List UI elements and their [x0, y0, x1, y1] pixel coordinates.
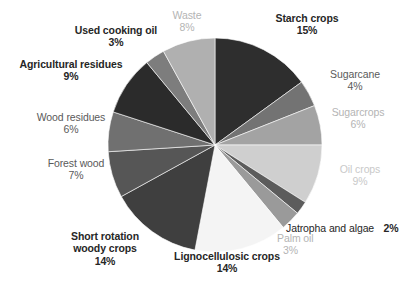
label-short-rotation-woody-crops-name-line1: Short rotation	[45, 230, 165, 242]
label-lignocellulosic-crops: Lignocellulosic crops 14%	[152, 250, 302, 275]
label-wood-residues: Wood residues 6%	[14, 111, 128, 136]
label-waste: Waste 8%	[154, 9, 220, 34]
label-sugarcane-name: Sugarcane	[310, 68, 400, 80]
label-starch-crops-name: Starch crops	[247, 12, 367, 24]
label-sugarcrops-value: 6%	[312, 118, 404, 130]
label-agricultural-residues: Agricultural residues 9%	[4, 58, 138, 83]
label-starch-crops: Starch crops 15%	[247, 12, 367, 37]
label-agricultural-residues-value: 9%	[4, 70, 138, 82]
label-short-rotation-woody-crops-name-line2: woody crops	[45, 242, 165, 254]
label-oil-crops-value: 9%	[320, 175, 400, 187]
label-forest-wood-value: 7%	[22, 169, 130, 181]
label-palm-oil-name: Palm oil	[277, 232, 337, 244]
label-wood-residues-value: 6%	[14, 123, 128, 135]
label-short-rotation-woody-crops-value: 14%	[45, 255, 165, 267]
pie-chart: Starch crops 15% Sugarcane 4% Sugarcrops…	[0, 0, 406, 289]
label-starch-crops-value: 15%	[247, 24, 367, 36]
label-waste-name: Waste	[154, 9, 220, 21]
label-sugarcrops-name: Sugarcrops	[312, 106, 404, 118]
label-lignocellulosic-crops-name: Lignocellulosic crops	[152, 250, 302, 262]
label-forest-wood-name: Forest wood	[22, 157, 130, 169]
label-agricultural-residues-name: Agricultural residues	[4, 58, 138, 70]
label-jatropha-and-algae-value: 2%	[383, 222, 398, 234]
label-sugarcane: Sugarcane 4%	[310, 68, 400, 93]
label-sugarcane-value: 4%	[310, 80, 400, 92]
label-oil-crops: Oil crops 9%	[320, 163, 400, 188]
label-wood-residues-name: Wood residues	[14, 111, 128, 123]
label-waste-value: 8%	[154, 21, 220, 33]
label-used-cooking-oil-value: 3%	[57, 36, 175, 48]
label-forest-wood: Forest wood 7%	[22, 157, 130, 182]
label-oil-crops-name: Oil crops	[320, 163, 400, 175]
label-short-rotation-woody-crops: Short rotation woody crops 14%	[45, 230, 165, 267]
label-lignocellulosic-crops-value: 14%	[152, 262, 302, 274]
label-sugarcrops: Sugarcrops 6%	[312, 106, 404, 131]
